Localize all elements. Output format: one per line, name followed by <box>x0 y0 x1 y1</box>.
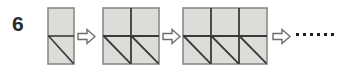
ellipsis-dot <box>303 33 306 36</box>
ellipsis-dot <box>324 33 327 36</box>
ellipsis-dot <box>310 33 313 36</box>
arrow-1 <box>77 28 96 45</box>
stage-3-grid <box>182 7 268 65</box>
stage-2-grid <box>102 7 160 65</box>
pattern-stage-2 <box>102 7 160 65</box>
arrow-2 <box>162 28 181 45</box>
arrow-3 <box>272 28 291 45</box>
right-arrow-icon <box>162 28 181 45</box>
right-arrow-icon <box>272 28 291 45</box>
sequence-figure-panel: 6 <box>0 0 339 75</box>
stage-1-grid <box>47 7 75 65</box>
problem-number-label: 6 <box>12 13 24 35</box>
ellipsis-dot <box>331 33 334 36</box>
ellipsis-dot <box>317 33 320 36</box>
ellipsis-continuation <box>296 33 334 36</box>
ellipsis-dot <box>296 33 299 36</box>
right-arrow-icon <box>77 28 96 45</box>
pattern-stage-1 <box>47 7 75 65</box>
pattern-stage-3 <box>182 7 268 65</box>
